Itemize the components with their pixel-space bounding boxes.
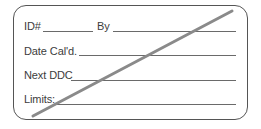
by-label: By: [97, 20, 110, 32]
next-ddc-label: Next DDC: [24, 69, 73, 81]
by-field-line[interactable]: [113, 31, 236, 32]
date-calibrated-field-line[interactable]: [79, 55, 236, 56]
next-ddc-field-line[interactable]: [71, 80, 236, 81]
date-calibrated-label: Date Cal'd.: [24, 45, 77, 57]
limits-label: Limits:: [24, 93, 55, 105]
id-label: ID#: [24, 20, 41, 32]
id-field-line[interactable]: [43, 31, 93, 32]
limits-field-line[interactable]: [53, 104, 236, 105]
